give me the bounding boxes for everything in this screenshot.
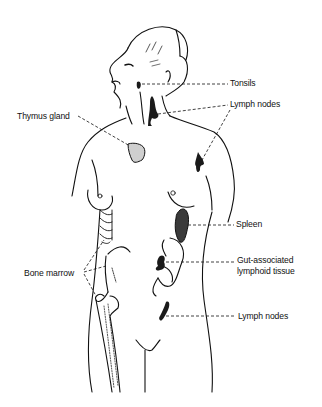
spleen-organ (175, 209, 188, 242)
label-spleen: Spleen (236, 219, 262, 229)
label-lymph-nodes-upper: Lymph nodes (230, 99, 280, 109)
leader-lymph-nodes-neck (158, 105, 228, 114)
head-outline (110, 27, 188, 108)
label-gut-associated-line2: lymphoid tissue (237, 266, 295, 276)
tonsil-organ (137, 81, 141, 88)
lymphoid-organs (128, 81, 204, 320)
label-thymus-gland: Thymus gland (17, 111, 70, 121)
leader-lymph-nodes-axilla (202, 110, 230, 160)
neck-outline (126, 92, 170, 124)
label-bone-marrow: Bone marrow (24, 268, 74, 278)
leader-thymus (78, 116, 130, 146)
gut-lymphoid-tissue-organ (156, 255, 165, 270)
label-gut-associated-line1: Gut-associated (237, 255, 293, 265)
ribcage (100, 210, 112, 244)
leader-lines (78, 84, 236, 316)
thymus-organ (128, 143, 145, 162)
pelvis-femur (96, 247, 130, 392)
leader-bone-marrow-ribs (84, 240, 104, 270)
label-lymph-nodes-lower: Lymph nodes (238, 311, 288, 321)
inguinal-lymph-node-organ (159, 302, 169, 321)
lymphoid-system-figure (0, 0, 322, 407)
neck-lymph-node-organ (148, 96, 158, 126)
label-tonsils: Tonsils (230, 78, 256, 88)
torso-outline (72, 116, 235, 392)
axillary-lymph-node-organ (195, 152, 204, 172)
